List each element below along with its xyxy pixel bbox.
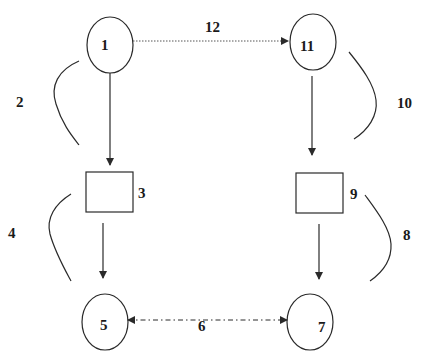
node-3-label: 3 (138, 186, 146, 201)
node-9-box (296, 173, 343, 213)
node-7-circle (287, 294, 333, 350)
node-1-circle (87, 17, 133, 73)
bracket-8-curve (365, 195, 391, 281)
node-9-label: 9 (350, 187, 358, 202)
bracket-10-curve (349, 52, 376, 139)
bracket-2-curve (54, 61, 79, 145)
bracket-2-label: 2 (16, 95, 24, 110)
bracket-4-label: 4 (8, 226, 16, 241)
node-5-label: 5 (100, 318, 108, 333)
node-3-box (86, 172, 133, 212)
node-7-label: 7 (318, 320, 326, 335)
node-1-label: 1 (101, 38, 109, 53)
node-11-label: 11 (300, 39, 314, 54)
bracket-4-curve (49, 194, 71, 281)
bracket-10-label: 10 (397, 96, 412, 111)
process-diagram (0, 0, 425, 360)
bracket-8-label: 8 (403, 228, 411, 243)
edge-6-label: 6 (198, 319, 206, 334)
edge-12-label: 12 (205, 20, 220, 35)
